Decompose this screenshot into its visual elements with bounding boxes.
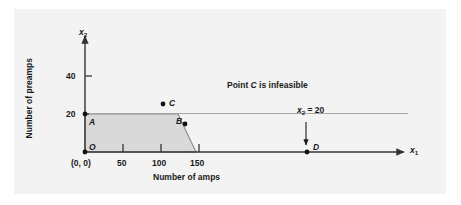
x-axis-symbol: x1 <box>410 146 418 155</box>
figure-container: Number of preamps 40 20 50 100 150 (0, 0… <box>0 0 461 205</box>
x-tick-label-100: 100 <box>152 159 166 168</box>
point-marker-A <box>83 112 88 117</box>
y-axis-title: Number of preamps <box>25 43 34 153</box>
y-axis-symbol: x2 <box>79 28 87 37</box>
plot-area <box>0 0 461 205</box>
infeasible-prefix: Point <box>227 80 251 90</box>
x-tick-label-150: 150 <box>190 159 204 168</box>
y-axis-symbol-sub: 2 <box>84 31 87 38</box>
point-label-B: B <box>176 117 182 126</box>
infeasible-annotation: Point C is infeasible <box>227 81 308 90</box>
x-tick-label-50: 50 <box>117 159 126 168</box>
x-axis-symbol-sub: 1 <box>415 149 418 156</box>
constraint-label-x2-20: x2 = 20 <box>297 106 324 115</box>
constraint-label-rest: = 20 <box>305 105 324 115</box>
point-marker-B <box>183 122 188 127</box>
point-marker-O <box>83 150 88 155</box>
point-marker-C <box>161 102 166 107</box>
origin-label: (0, 0) <box>71 159 91 168</box>
infeasible-suffix: is infeasible <box>257 80 308 90</box>
y-tick-label-40: 40 <box>66 72 75 81</box>
point-label-C: C <box>169 99 175 108</box>
point-label-O: O <box>89 143 96 152</box>
x-axis-title: Number of amps <box>153 173 220 182</box>
constraint-label-sub: 2 <box>302 109 305 116</box>
point-label-A: A <box>89 118 95 127</box>
point-label-D: D <box>313 143 319 152</box>
y-tick-label-20: 20 <box>66 110 75 119</box>
point-marker-D <box>305 150 310 155</box>
